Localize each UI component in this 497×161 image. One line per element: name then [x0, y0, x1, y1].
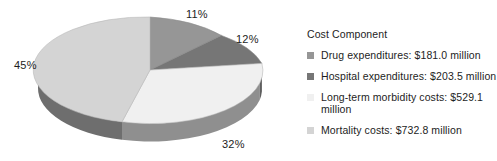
- legend-item-hospital: Hospital expenditures: $203.5 million: [307, 70, 497, 82]
- legend-swatch-mortality: [307, 127, 314, 134]
- legend: Cost Component Drug expenditures: $181.0…: [307, 28, 497, 145]
- legend-item-drug: Drug expenditures: $181.0 million: [307, 49, 497, 61]
- legend-swatch-hospital: [307, 73, 314, 80]
- pie-svg: [0, 0, 290, 161]
- legend-label-drug: Drug expenditures: $181.0 million: [321, 49, 481, 61]
- legend-item-mortality: Mortality costs: $732.8 million: [307, 124, 497, 136]
- legend-swatch-morbidity: [307, 94, 314, 101]
- legend-title: Cost Component: [307, 28, 497, 40]
- legend-label-morbidity: Long-term morbidity costs: $529.1 millio…: [321, 91, 497, 115]
- pie-chart-figure: 11% 12% 45% 32% Cost Component Drug expe…: [0, 0, 497, 161]
- pie-label-drug: 11%: [186, 8, 208, 20]
- legend-label-mortality: Mortality costs: $732.8 million: [321, 124, 462, 136]
- legend-swatch-drug: [307, 52, 314, 59]
- pie-label-hospital: 12%: [236, 33, 259, 45]
- pie-label-morbidity: 32%: [222, 138, 245, 150]
- legend-label-hospital: Hospital expenditures: $203.5 million: [321, 70, 496, 82]
- legend-item-morbidity: Long-term morbidity costs: $529.1 millio…: [307, 91, 497, 115]
- pie-label-mortality: 45%: [14, 59, 37, 71]
- pie-chart-area: 11% 12% 45% 32%: [0, 0, 290, 161]
